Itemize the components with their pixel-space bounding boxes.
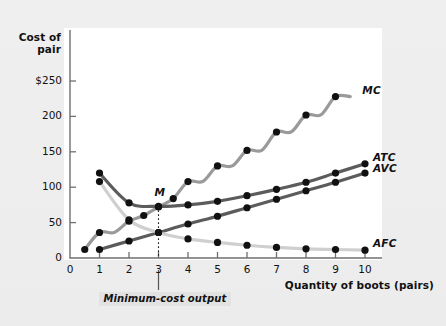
series-lines [85,95,365,250]
y-axis-title-line1: Cost of [19,31,61,43]
marker-avc [243,204,250,211]
marker-atc [332,169,339,176]
marker-afc [361,247,368,254]
curve-label-afc: AFC [373,237,397,249]
marker-avc [273,196,280,203]
y-axis-title: Cost of pair [6,32,61,55]
curve-label-mc: MC [362,84,381,96]
marker-mc [81,246,88,253]
marker-afc [184,235,191,242]
marker-mc [273,128,280,135]
y-tick-label: 0 [20,251,62,263]
marker-atc [125,199,132,206]
marker-avc [214,213,221,220]
x-tick-label: 8 [295,263,317,275]
marker-atc [361,160,368,167]
marker-afc [273,244,280,251]
x-tick-label: 2 [118,263,140,275]
x-tick-label: 0 [59,263,81,275]
marker-afc [332,246,339,253]
curve-label-atc: ATC [373,151,396,163]
y-tick-label: 150 [20,145,62,157]
x-tick-label: 1 [89,263,111,275]
y-axis-title-line2: pair [37,43,61,55]
marker-atc [96,169,103,176]
minimum-cost-point-label: M [155,186,165,198]
marker-mc [170,195,177,202]
y-tick-label: 200 [20,109,62,121]
marker-mc [332,93,339,100]
curve-label-avc: AVC [373,162,397,174]
marker-avc [302,187,309,194]
x-tick-label: 9 [325,263,347,275]
marker-mc [184,178,191,185]
x-tick-label: 7 [266,263,288,275]
x-tick-label: 4 [177,263,199,275]
y-tick-label: $250 [20,74,62,86]
marker-afc [96,178,103,185]
marker-afc [125,216,132,223]
y-tick-label: 50 [20,216,62,228]
marker-afc [243,242,250,249]
marker-atc [243,192,250,199]
x-axis-title: Quantity of boots (pairs) [285,279,434,291]
x-tick-label: 3 [148,263,170,275]
marker-atc [184,201,191,208]
marker-mc [243,147,250,154]
curve-avc [100,173,366,249]
x-tick-label: 5 [207,263,229,275]
minimum-cost-output-annotation: Minimum-cost output [99,292,232,306]
marker-avc [125,237,132,244]
curve-mc [85,95,351,249]
marker-avc [184,220,191,227]
axes [69,30,382,258]
marker-avc [96,246,103,253]
marker-mc [302,111,309,118]
marker-atc [214,198,221,205]
x-tick-label: 6 [236,263,258,275]
marker-avc [361,169,368,176]
cost-curves-figure: Cost of pair 050100150200$250 0123456789… [0,0,446,326]
marker-avc [332,179,339,186]
marker-mc [140,212,147,219]
marker-atc [273,186,280,193]
marker-mc [214,162,221,169]
data-point-markers [81,93,368,254]
marker-afc [214,239,221,246]
marker-mc [96,229,103,236]
y-tick-label: 100 [20,180,62,192]
marker-atc [302,179,309,186]
x-tick-label: 10 [354,263,376,275]
marker-afc [302,245,309,252]
